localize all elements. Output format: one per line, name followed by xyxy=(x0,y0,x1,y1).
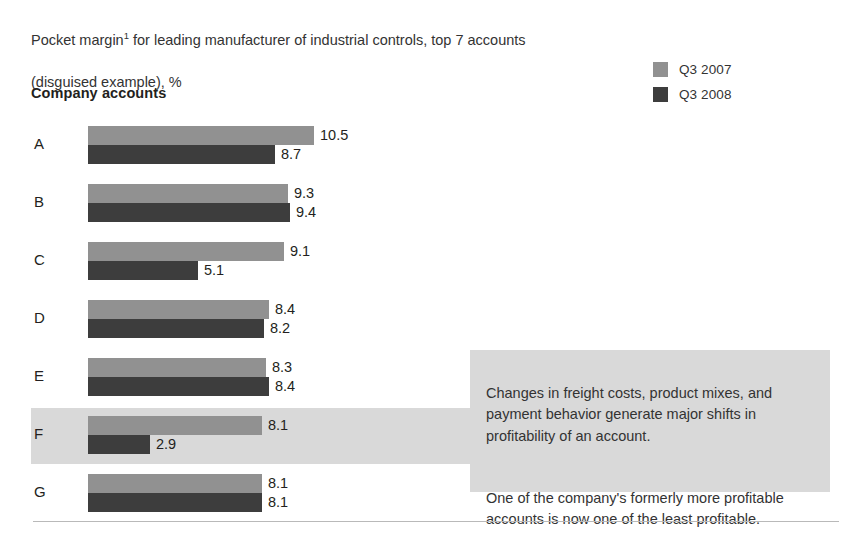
callout-box: Changes in freight costs, product mixes,… xyxy=(470,350,830,492)
bar-q3-2007[interactable] xyxy=(88,184,288,203)
row-label: G xyxy=(34,483,58,500)
footer-divider xyxy=(33,521,839,522)
callout-paragraph-2: One of the company's formerly more profi… xyxy=(486,488,816,531)
row-label: C xyxy=(34,251,58,268)
chart-row-a: A10.58.7 xyxy=(0,118,857,176)
row-label: A xyxy=(34,135,58,152)
bar-q3-2008[interactable] xyxy=(88,377,269,396)
legend-item-q3-2007: Q3 2007 xyxy=(653,59,732,80)
exhibit-chart: Pocket margin1 for leading manufacturer … xyxy=(0,0,857,536)
chart-row-b: B9.39.4 xyxy=(0,176,857,234)
bar-q3-2007-value-label: 8.1 xyxy=(268,474,288,493)
callout-paragraph-1: Changes in freight costs, product mixes,… xyxy=(486,383,816,448)
bar-q3-2008-value-label: 8.7 xyxy=(281,145,301,164)
bar-q3-2007-value-label: 8.4 xyxy=(275,300,295,319)
bar-q3-2007-value-label: 9.3 xyxy=(294,184,314,203)
legend-item-q3-2008: Q3 2008 xyxy=(653,84,732,105)
bar-q3-2007[interactable] xyxy=(88,126,314,145)
chart-title: Pocket margin1 for leading manufacturer … xyxy=(31,9,651,93)
chart-title-line1-rest: for leading manufacturer of industrial c… xyxy=(129,32,526,48)
callout-text: Changes in freight costs, product mixes,… xyxy=(486,361,816,536)
chart-legend: Q3 2007 Q3 2008 xyxy=(653,59,732,109)
legend-swatch-dark-icon xyxy=(653,87,668,102)
chart-title-line1-prefix: Pocket margin xyxy=(31,32,124,48)
bar-q3-2008-value-label: 8.4 xyxy=(275,377,295,396)
bar-q3-2008-value-label: 8.1 xyxy=(268,493,288,512)
chart-row-d: D8.48.2 xyxy=(0,292,857,350)
bar-q3-2007[interactable] xyxy=(88,358,266,377)
row-label: B xyxy=(34,193,58,210)
bar-q3-2008[interactable] xyxy=(88,493,262,512)
bar-q3-2007-value-label: 10.5 xyxy=(320,126,348,145)
bar-q3-2007-value-label: 9.1 xyxy=(290,242,310,261)
chart-row-c: C9.15.1 xyxy=(0,234,857,292)
bar-q3-2008[interactable] xyxy=(88,261,198,280)
legend-swatch-light-icon xyxy=(653,62,668,77)
bar-q3-2007-value-label: 8.1 xyxy=(268,416,288,435)
bar-q3-2008[interactable] xyxy=(88,435,150,454)
bar-q3-2007[interactable] xyxy=(88,300,269,319)
bar-q3-2008-value-label: 5.1 xyxy=(204,261,224,280)
bar-q3-2008[interactable] xyxy=(88,203,290,222)
bar-q3-2008-value-label: 2.9 xyxy=(156,435,176,454)
bar-q3-2007[interactable] xyxy=(88,242,284,261)
bar-q3-2007[interactable] xyxy=(88,474,262,493)
row-label: E xyxy=(34,367,58,384)
bar-q3-2008[interactable] xyxy=(88,145,275,164)
bar-q3-2008[interactable] xyxy=(88,319,264,338)
bar-q3-2008-value-label: 8.2 xyxy=(270,319,290,338)
bar-q3-2007-value-label: 8.3 xyxy=(272,358,292,377)
row-label: F xyxy=(34,425,58,442)
row-label: D xyxy=(34,309,58,326)
category-axis-header: Company accounts xyxy=(31,85,166,101)
legend-label-q3-2007: Q3 2007 xyxy=(679,62,732,77)
bar-q3-2007[interactable] xyxy=(88,416,262,435)
legend-label-q3-2008: Q3 2008 xyxy=(679,87,732,102)
bar-q3-2008-value-label: 9.4 xyxy=(296,203,316,222)
